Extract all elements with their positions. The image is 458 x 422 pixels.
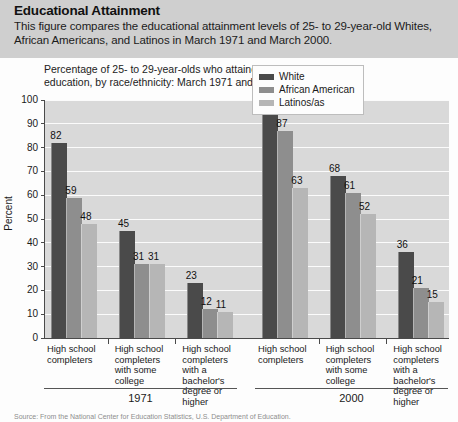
y-axis-tick-mark [41,100,45,101]
group-rule [44,388,237,389]
y-axis-tick-label: 60 [10,190,38,200]
x-axis-category-label-line: High school [326,344,392,355]
bar-african-american-2000-0 [277,131,293,338]
x-axis-category-label: High schoolcompleters [258,344,324,365]
y-axis-tick-mark [41,338,45,339]
y-axis-tick-mark [41,242,45,243]
group-label-2000: 2000 [255,392,448,404]
gridline [45,242,449,243]
bar-latinos-as-1971-1 [149,264,165,338]
bar-white-1971-2 [187,283,203,338]
bar-white-2000-2 [398,252,414,338]
y-axis-tick-label: 80 [10,143,38,153]
bar-value-label: 31 [148,252,169,262]
x-axis-category-label-line: High school [258,344,324,355]
x-axis-category-label-line: High school [47,344,113,355]
x-axis-category-label-line: college [115,376,181,387]
y-axis-tick-mark [41,147,45,148]
bar-white-1971-1 [119,231,135,338]
y-axis-tick-label: 30 [10,262,38,272]
source-note: Source: From the National Center for Edu… [14,413,454,422]
bar-african-american-2000-1 [345,193,361,338]
y-axis-title: Percent [3,184,14,244]
y-axis-tick-label: 10 [10,309,38,319]
bar-value-label: 11 [216,300,237,310]
bar-value-label: 82 [50,131,71,141]
x-axis-category-label-line: with some [326,365,392,376]
bar-white-1971-0 [51,143,67,338]
gridline [45,147,449,148]
y-axis-tick-label: 90 [10,119,38,129]
gridline [45,290,449,291]
group-rule [255,388,448,389]
y-axis-tick-mark [41,123,45,124]
y-axis-tick-mark [41,219,45,220]
legend-label: African American [279,84,355,95]
gridline [45,195,449,196]
x-axis-category-label-line: High school [182,344,248,355]
x-axis-category-label-line: completers [182,355,248,366]
bar-value-label: 63 [291,176,312,186]
x-axis-category-label: High schoolcompleterswith somecollege [115,344,181,386]
bar-value-label: 87 [276,119,297,129]
bar-value-label: 48 [80,212,101,222]
bar-white-2000-0 [262,114,278,338]
gridline [45,123,449,124]
y-axis-tick-mark [41,266,45,267]
bar-value-label: 15 [427,290,448,300]
y-axis-tick-label: 0 [10,333,38,343]
figure-container: Percentage of 25- to 29-year-olds who at… [0,58,458,422]
bar-value-label: 61 [344,181,365,191]
y-axis-tick-label: 40 [10,238,38,248]
legend-swatch-icon [259,74,274,80]
bar-value-label: 36 [397,240,418,250]
bar-white-2000-1 [330,176,346,338]
x-axis-category-label-line: completers [326,355,392,366]
legend-item-latinos-as: Latinos/as [259,96,355,109]
y-axis-tick-mark [41,195,45,196]
y-axis-tick-mark [41,314,45,315]
group-label-1971: 1971 [44,392,237,404]
chart-legend: WhiteAfrican AmericanLatinos/as [252,65,364,115]
page-title: Educational Attainment [14,3,448,19]
bar-value-label: 59 [65,186,86,196]
x-axis-category-label-line: college [326,376,392,387]
bar-latinos-as-2000-1 [360,214,376,338]
bar-latinos-as-1971-2 [217,312,233,338]
x-axis-category-label: High schoolcompleterswith somecollege [326,344,392,386]
gridline [45,100,449,101]
y-axis-tick-mark [41,171,45,172]
bar-value-label: 21 [412,276,433,286]
x-axis-category-label-line: with a bachelor's [393,365,458,386]
legend-swatch-icon [259,87,274,93]
x-axis-category-label-line: with a bachelor's [182,365,248,386]
bar-african-american-1971-1 [134,264,150,338]
header-band: Educational Attainment This figure compa… [0,0,458,58]
legend-label: Latinos/as [279,97,325,108]
x-axis-category-label-line: completers [47,355,113,366]
gridline [45,266,449,267]
y-axis-tick-label: 70 [10,166,38,176]
gridline [45,171,449,172]
header-description: This figure compares the educational att… [14,20,448,47]
bar-value-label: 23 [186,271,207,281]
legend-label: White [279,71,305,82]
x-axis-category-label: High schoolcompleters [47,344,113,365]
x-axis-category-label-line: with some [115,365,181,376]
x-axis-category-label-line: High school [393,344,458,355]
legend-swatch-icon [259,100,274,106]
x-axis-category-label-line: completers [393,355,458,366]
legend-item-white: White [259,70,355,83]
bar-value-label: 45 [118,219,139,229]
bar-latinos-as-2000-2 [428,302,444,338]
bar-latinos-as-2000-0 [292,188,308,338]
y-axis-tick-mark [41,290,45,291]
legend-item-african-american: African American [259,83,355,96]
x-axis-category-label-line: completers [115,355,181,366]
y-axis-tick-label: 50 [10,214,38,224]
bar-value-label: 52 [359,202,380,212]
bar-latinos-as-1971-0 [81,224,97,338]
plot-area: 825948453131231211948763686152362115 [44,100,449,339]
gridline [45,314,449,315]
bar-african-american-1971-2 [202,309,218,338]
